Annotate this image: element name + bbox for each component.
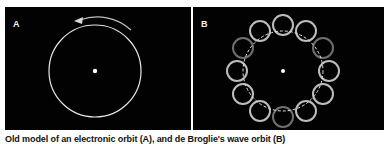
arrowhead-icon <box>74 17 83 24</box>
panel-b-wave-orbit: B <box>193 7 384 130</box>
orbit-diagram-b <box>193 7 384 130</box>
orbit-diagram-a <box>5 7 191 130</box>
figure-caption: Old model of an electronic orbit (A), an… <box>5 134 285 144</box>
nucleus-dot <box>93 69 97 73</box>
panel-a-old-orbit: A <box>5 7 191 130</box>
rotation-arrow-icon <box>80 17 131 30</box>
nucleus-dot <box>281 69 285 73</box>
